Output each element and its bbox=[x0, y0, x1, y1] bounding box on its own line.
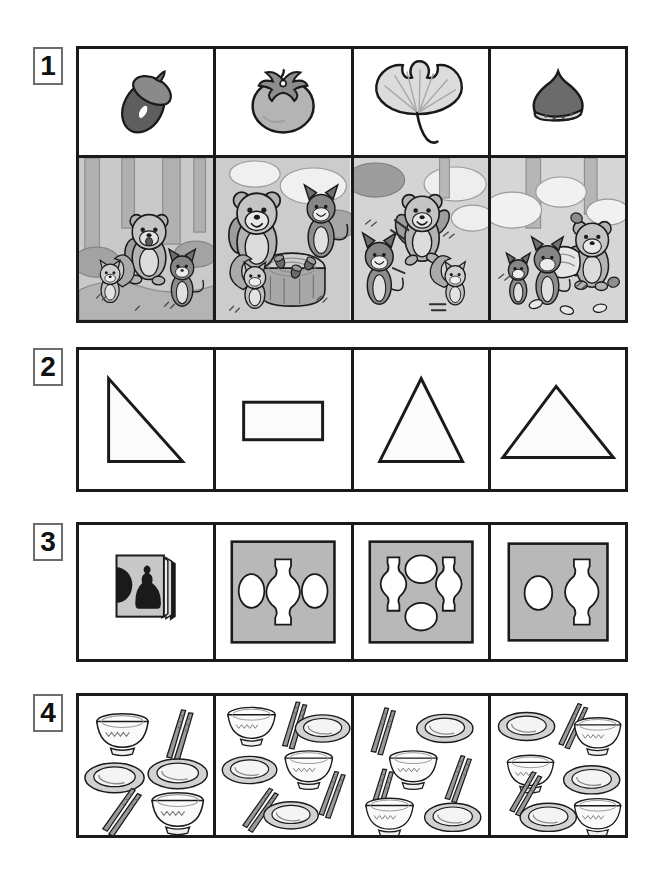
right-triangle-shape bbox=[79, 350, 213, 489]
cell-scene-running-together[interactable] bbox=[354, 158, 491, 320]
rectangle-shape bbox=[216, 350, 350, 489]
tall-triangle-shape bbox=[354, 350, 488, 489]
persimmon-icon bbox=[216, 49, 350, 155]
tableware-set-a bbox=[79, 696, 213, 835]
cell-chestnut[interactable] bbox=[491, 49, 625, 155]
acorns-stump-scene bbox=[216, 158, 350, 320]
cell-ginkgo-leaf[interactable] bbox=[354, 49, 491, 155]
row-3-grid bbox=[76, 522, 628, 662]
cell-scene-acorns-on-stump[interactable] bbox=[216, 158, 353, 320]
cell-acorn[interactable] bbox=[79, 49, 216, 155]
row-1-grid bbox=[76, 46, 628, 323]
row-1-scenes bbox=[79, 158, 625, 320]
figure-ground-2v-2f bbox=[354, 525, 488, 659]
forest-walk-scene bbox=[79, 158, 213, 320]
row-4-grid bbox=[76, 693, 628, 838]
cell-tableware-set-c[interactable] bbox=[354, 696, 491, 835]
cell-scene-going-home[interactable] bbox=[491, 158, 625, 320]
tableware-set-b bbox=[216, 696, 350, 835]
cell-tableware-set-a[interactable] bbox=[79, 696, 216, 835]
wide-triangle-shape bbox=[491, 350, 625, 489]
chestnut-icon bbox=[491, 49, 625, 155]
cell-illusion-one-vase-one-face[interactable] bbox=[491, 525, 625, 659]
row-number-2: 2 bbox=[33, 348, 63, 386]
cell-tall-triangle[interactable] bbox=[354, 350, 491, 489]
cell-illusion-one-vase-two-faces[interactable] bbox=[216, 525, 353, 659]
cell-persimmon[interactable] bbox=[216, 49, 353, 155]
row-number-1: 1 bbox=[33, 47, 63, 85]
cell-right-triangle[interactable] bbox=[79, 350, 216, 489]
running-scene bbox=[354, 158, 488, 320]
ginkgo-leaf-icon bbox=[354, 49, 488, 155]
row-1-objects bbox=[79, 49, 625, 158]
cell-wide-triangle[interactable] bbox=[491, 350, 625, 489]
cell-illusion-book[interactable] bbox=[79, 525, 216, 659]
figure-ground-1v-1f bbox=[491, 525, 625, 659]
tableware-set-d bbox=[491, 696, 625, 835]
row-2-grid bbox=[76, 347, 628, 492]
illusion-book-icon bbox=[79, 525, 213, 659]
row-number-3: 3 bbox=[33, 523, 63, 561]
tableware-set-c bbox=[354, 696, 488, 835]
cell-tableware-set-d[interactable] bbox=[491, 696, 625, 835]
cell-illusion-two-vases-two-faces[interactable] bbox=[354, 525, 491, 659]
going-home-scene bbox=[491, 158, 625, 320]
cell-scene-walking-in-forest[interactable] bbox=[79, 158, 216, 320]
worksheet-page: 1 bbox=[0, 0, 654, 884]
row-number-4: 4 bbox=[33, 694, 63, 732]
figure-ground-1v-2f bbox=[216, 525, 350, 659]
acorn-icon bbox=[79, 49, 213, 155]
cell-tableware-set-b[interactable] bbox=[216, 696, 353, 835]
cell-rectangle[interactable] bbox=[216, 350, 353, 489]
